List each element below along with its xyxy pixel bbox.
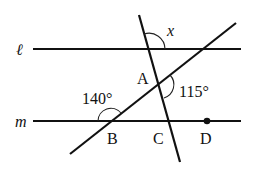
point-d-dot: [204, 118, 211, 125]
line-l-label: ℓ: [16, 41, 23, 58]
geometry-diagram: ℓ m x A 140° 115° B C D: [0, 0, 263, 189]
angle-140-arc: [98, 108, 121, 121]
point-b-label: B: [107, 130, 118, 147]
point-d-label: D: [200, 130, 212, 147]
angle-140-label: 140°: [82, 90, 112, 107]
point-c-label: C: [153, 130, 164, 147]
angle-x-label: x: [166, 22, 174, 39]
point-a-label: A: [137, 70, 149, 87]
line-m-label: m: [15, 113, 27, 130]
angle-115-label: 115°: [179, 83, 209, 100]
